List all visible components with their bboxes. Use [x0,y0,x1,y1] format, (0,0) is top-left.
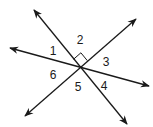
angle-label-1: 1 [50,44,57,58]
angle-label-6: 6 [50,68,57,82]
right-angle-marker [74,53,88,61]
angle-diagram: 123456 [0,0,153,127]
angle-label-4: 4 [101,79,108,93]
angle-label-5: 5 [75,80,82,94]
angle-label-3: 3 [103,55,110,69]
lines-group [10,10,149,124]
angle-labels: 123456 [50,33,110,94]
angle-label-2: 2 [77,33,84,47]
